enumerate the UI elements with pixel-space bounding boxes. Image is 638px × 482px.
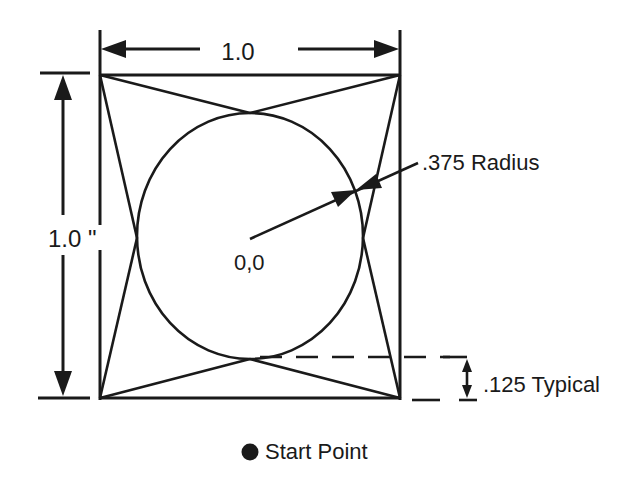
diagonal-top-left-to-top-tangent <box>100 75 250 113</box>
origin-label: 0,0 <box>234 250 265 275</box>
radius-label: .375 Radius <box>422 150 539 175</box>
inscribed-circle <box>137 113 363 359</box>
width-arrowhead-right-icon <box>374 40 399 58</box>
diagonal-top-right-to-top-tangent <box>250 75 400 113</box>
height-arrowhead-up-icon <box>54 75 72 100</box>
radius-arrowhead-inner-icon <box>331 190 356 207</box>
offset-label: .125 Typical <box>483 372 600 397</box>
height-arrowhead-down-icon <box>54 371 72 396</box>
technical-diagram: 1.0 1.0 " .375 Radius 0,0 .125 Typical S… <box>0 0 638 482</box>
offset-arrowhead-down-icon <box>462 385 472 398</box>
offset-arrowhead-up-icon <box>462 359 472 372</box>
height-dimension-label: 1.0 " <box>48 225 97 252</box>
diagonal-top-left-to-left-tangent <box>100 75 137 238</box>
diagonal-top-right-to-right-tangent <box>363 75 400 238</box>
width-dimension-label: 1.0 <box>221 38 254 65</box>
diagonal-bottom-left-to-left-tangent <box>100 238 137 398</box>
width-arrowhead-left-icon <box>101 40 126 58</box>
diagonal-bottom-right-to-right-tangent <box>363 238 400 398</box>
legend-start-point-label: Start Point <box>265 439 368 464</box>
diagonal-bottom-right-to-bottom-tangent <box>250 359 400 398</box>
diagonal-bottom-left-to-bottom-tangent <box>100 359 250 398</box>
radius-leader-line <box>250 163 418 239</box>
start-point-marker-icon <box>242 444 259 461</box>
